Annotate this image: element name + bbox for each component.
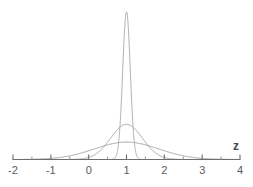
tick-label--2: -2 [8, 164, 18, 176]
tick-label-2: 2 [161, 164, 167, 176]
x-axis-label: z [233, 139, 239, 153]
tick-label--1: -1 [46, 164, 56, 176]
curves-layer [13, 12, 240, 160]
tick-label-3: 3 [199, 164, 205, 176]
axis-tick-labels: -2 -1 0 1 2 3 4 [8, 164, 243, 176]
normal-distribution-chart: -2 -1 0 1 2 3 4 z [0, 0, 253, 187]
tick-label-4: 4 [237, 164, 243, 176]
distribution-curve-narrow [13, 12, 240, 160]
chart-canvas: -2 -1 0 1 2 3 4 z [0, 0, 253, 187]
tick-label-1: 1 [123, 164, 129, 176]
tick-label-0: 0 [86, 164, 92, 176]
